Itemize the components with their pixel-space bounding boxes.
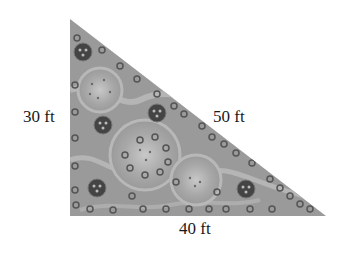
side-label-vertical: 30 ft bbox=[23, 107, 55, 127]
side-label-horizontal: 40 ft bbox=[179, 219, 211, 239]
garden-triangle bbox=[0, 0, 340, 256]
side-label-hypotenuse: 50 ft bbox=[213, 107, 245, 127]
